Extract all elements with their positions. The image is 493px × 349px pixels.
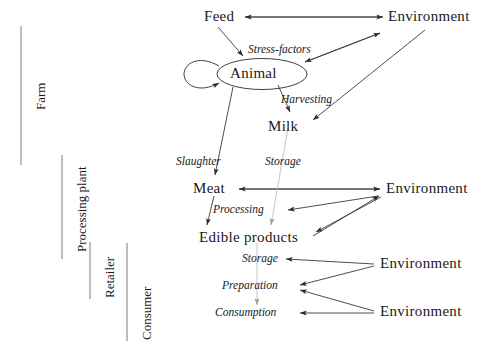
node-feed: Feed	[204, 8, 234, 25]
edge-environment-bottom-to-preparation	[300, 290, 374, 311]
node-environment-top: Environment	[388, 8, 470, 25]
process-label-storage-upper: Storage	[265, 155, 301, 167]
node-milk: Milk	[268, 118, 298, 135]
process-label-consumption: Consumption	[215, 306, 276, 318]
process-label-processing: Processing	[213, 203, 264, 215]
edge-environment-top-to-animal	[305, 33, 380, 62]
process-label-storage-lower: Storage	[242, 252, 278, 264]
process-label-stress-factors: Stress-factors	[248, 43, 311, 55]
stage-label-farm: Farm	[33, 83, 49, 110]
edge-environment-top-to-milk	[313, 30, 425, 120]
food-chain-diagram: Farm Processing plant Retailer Consumer …	[0, 0, 493, 349]
node-environment-mid: Environment	[386, 180, 468, 197]
process-label-slaughter: Slaughter	[176, 155, 221, 167]
stage-label-consumer: Consumer	[139, 287, 155, 340]
edge-feed-to-animal	[218, 27, 243, 56]
animal-self-loop	[184, 61, 219, 88]
node-animal: Animal	[230, 65, 277, 82]
node-environment-bottom: Environment	[380, 303, 462, 320]
edge-environment-lower-to-preparation	[300, 266, 374, 285]
edge-environment-lower-to-storage	[286, 259, 374, 264]
edge-milk-to-edible-products	[271, 128, 288, 225]
node-meat: Meat	[193, 180, 225, 197]
stage-label-processing-plant: Processing plant	[74, 166, 90, 252]
edge-environment-mid-to-processing	[288, 196, 378, 210]
stage-label-retailer: Retailer	[102, 257, 118, 298]
node-edible-products: Edible products	[199, 229, 298, 246]
edge-environment-mid-to-edible-products	[316, 197, 381, 232]
node-environment-lower: Environment	[380, 255, 462, 272]
process-label-harvesting: Harvesting	[281, 93, 332, 105]
process-label-preparation: Preparation	[222, 279, 278, 291]
